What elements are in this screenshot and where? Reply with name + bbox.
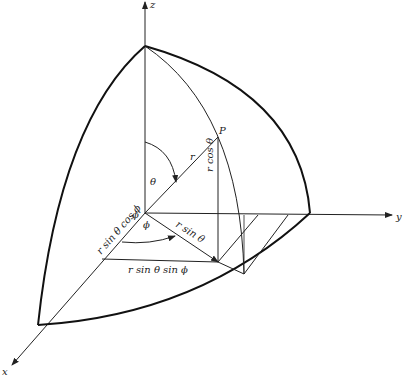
r-sin-theta-label: r sin θ bbox=[174, 218, 207, 245]
x-axis-label: x bbox=[2, 366, 8, 377]
y-axis-label: y bbox=[395, 211, 402, 222]
phi-arc bbox=[122, 236, 175, 243]
sphere-octant-outline bbox=[38, 46, 310, 325]
y-axis bbox=[145, 213, 392, 215]
phi-label: ϕ bbox=[143, 219, 150, 230]
projection-extension bbox=[218, 262, 244, 274]
z-axis-label: z bbox=[149, 0, 156, 10]
x-axis bbox=[12, 213, 145, 365]
r-sin-theta-cos-phi-label: r sin θ cos ϕ bbox=[94, 202, 143, 256]
parallel-to-x-line bbox=[218, 215, 258, 262]
diagram-svg: z y x P r θ ϕ ϕ r cos θ r sin θ r sin θ … bbox=[0, 0, 405, 378]
r-sin-theta-sin-phi-label: r sin θ sin ϕ bbox=[128, 264, 188, 275]
r-cos-theta-label: r cos θ bbox=[204, 138, 215, 172]
point-p-label: P bbox=[218, 125, 226, 136]
spherical-coordinates-diagram: z y x P r θ ϕ ϕ r cos θ r sin θ r sin θ … bbox=[0, 0, 405, 378]
theta-label: θ bbox=[150, 176, 156, 187]
r-sin-theta-sin-phi-line bbox=[102, 259, 218, 262]
